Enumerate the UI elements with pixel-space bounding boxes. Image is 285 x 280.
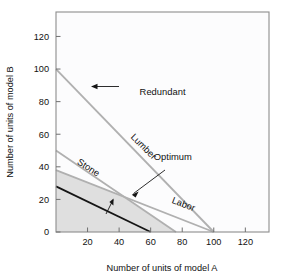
y-tick-label-100: 100 bbox=[34, 64, 49, 74]
y-tick-label-40: 40 bbox=[39, 162, 49, 172]
y-axis-title: Number of units of model B bbox=[5, 66, 15, 177]
annotation-redundant: Redundant bbox=[140, 86, 186, 97]
annotation-optimum: Optimum bbox=[154, 151, 192, 162]
y-tick-label-0: 0 bbox=[44, 227, 49, 237]
chart-figure: 20406080100120 020406080100120 Number of… bbox=[0, 0, 285, 280]
y-tick-label-60: 60 bbox=[39, 130, 49, 140]
y-tick-label-120: 120 bbox=[34, 32, 49, 42]
x-tick-label-20: 20 bbox=[82, 237, 92, 247]
y-tick-label-80: 80 bbox=[39, 97, 49, 107]
x-tick-label-60: 60 bbox=[146, 237, 156, 247]
x-tick-label-120: 120 bbox=[238, 237, 253, 247]
x-tick-label-40: 40 bbox=[114, 237, 124, 247]
y-tick-label-20: 20 bbox=[39, 195, 49, 205]
y-axis-tick-labels: 020406080100120 bbox=[34, 32, 49, 238]
x-tick-label-100: 100 bbox=[206, 237, 221, 247]
x-axis-title: Number of units of model A bbox=[107, 263, 219, 273]
x-axis-tick-labels: 20406080100120 bbox=[82, 237, 253, 247]
linear-programming-chart: 20406080100120 020406080100120 Number of… bbox=[0, 0, 285, 280]
x-tick-label-80: 80 bbox=[177, 237, 187, 247]
